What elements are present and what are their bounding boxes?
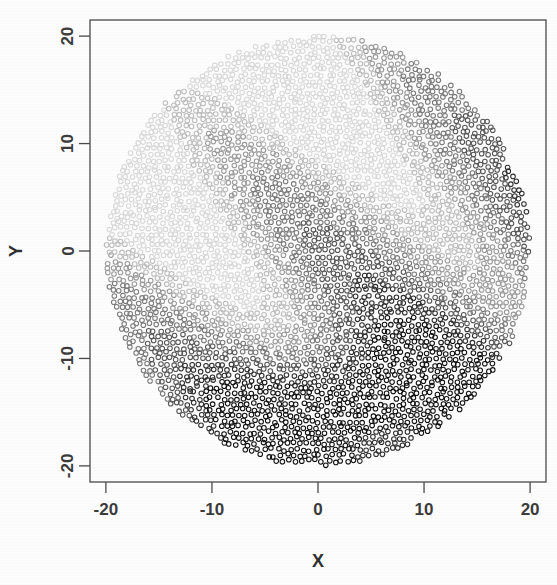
x-tick-label: 10 bbox=[415, 500, 434, 519]
plot-svg: -20-1001020 -20-1001020 X Y bbox=[0, 0, 557, 585]
y-tick-label: -20 bbox=[59, 454, 78, 479]
y-axis-title: Y bbox=[6, 245, 26, 257]
y-tick-label: -10 bbox=[59, 346, 78, 371]
x-tick-label: -10 bbox=[200, 500, 225, 519]
y-tick-label: 10 bbox=[59, 134, 78, 153]
x-tick-label: 0 bbox=[313, 500, 322, 519]
y-tick-label: 20 bbox=[59, 27, 78, 46]
scatter-plot-figure: -20-1001020 -20-1001020 X Y bbox=[0, 0, 557, 585]
x-axis-title: X bbox=[312, 551, 324, 571]
x-tick-label: -20 bbox=[94, 500, 119, 519]
x-tick-label: 20 bbox=[521, 500, 540, 519]
y-tick-label: 0 bbox=[59, 246, 78, 255]
